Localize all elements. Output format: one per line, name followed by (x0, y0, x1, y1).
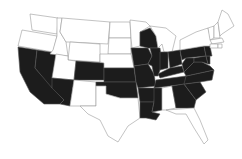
state-ks (104, 68, 136, 82)
state-nd (109, 22, 131, 38)
state-nm (70, 80, 96, 106)
state-mt (60, 18, 110, 44)
state-fl (166, 108, 208, 144)
state-me (218, 10, 234, 36)
us-choropleth-map (0, 0, 242, 159)
map-canvas (0, 0, 242, 159)
state-ne (100, 54, 134, 68)
state-sd (108, 38, 131, 54)
state-wy (68, 42, 100, 62)
state-oh (168, 50, 182, 68)
state-in (160, 52, 168, 70)
state-ct (210, 44, 218, 48)
state-ri (218, 44, 222, 48)
state-ar (138, 88, 156, 102)
state-co (74, 61, 104, 80)
state-wa (30, 14, 58, 34)
